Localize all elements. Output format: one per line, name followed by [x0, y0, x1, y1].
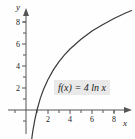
svg-text:4: 4 [16, 62, 20, 71]
x-tick-labels: 2 4 6 8 [46, 115, 116, 124]
x-axis-arrow [124, 107, 132, 113]
svg-text:8: 8 [16, 18, 20, 27]
svg-text:2: 2 [16, 84, 20, 93]
equation-label: f(x) = 4 ln x [54, 80, 110, 95]
plot-canvas: 2 4 6 8 2 4 6 8 [0, 0, 135, 139]
svg-text:2: 2 [46, 115, 50, 124]
svg-text:6: 6 [16, 40, 20, 49]
graph-figure: 2 4 6 8 2 4 6 8 y x f(x) = 4 ln x [0, 0, 135, 139]
y-axis-label: y [16, 2, 20, 12]
y-axis-arrow [23, 8, 29, 16]
x-axis-label: x [123, 118, 127, 128]
y-tick-labels: 2 4 6 8 [16, 18, 20, 93]
svg-text:4: 4 [68, 115, 72, 124]
svg-text:8: 8 [112, 115, 116, 124]
svg-text:6: 6 [90, 115, 94, 124]
